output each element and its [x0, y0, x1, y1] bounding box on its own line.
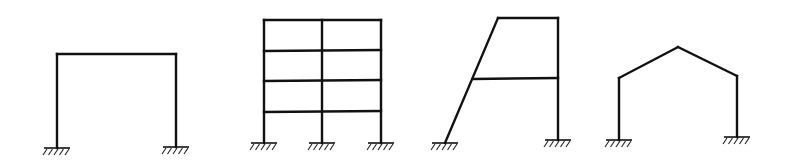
frame-member	[445, 18, 498, 143]
portal-frame	[43, 54, 189, 155]
frame-member	[264, 111, 381, 112]
frames-canvas	[0, 0, 787, 161]
multistory-frame	[250, 20, 394, 150]
gable-frame	[605, 47, 750, 147]
inclined-leg-frame	[431, 18, 571, 150]
frame-member	[264, 80, 381, 81]
structural-frames-diagram	[0, 0, 787, 161]
frame-member	[264, 50, 381, 51]
frame-member	[678, 47, 737, 76]
frame-member	[473, 78, 558, 79]
frame-member	[619, 47, 678, 78]
